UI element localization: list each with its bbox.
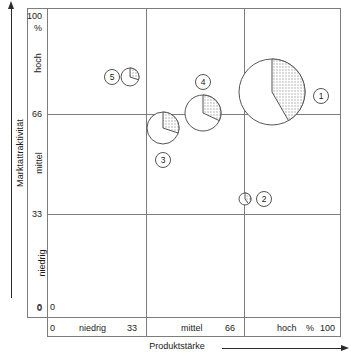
- bubble-4[interactable]: [185, 95, 221, 131]
- x-unit-percent: %: [306, 319, 314, 338]
- x-tick-33: 33: [127, 319, 137, 338]
- bubble-label-1[interactable]: 1: [313, 88, 329, 104]
- x-row-divider-66: [244, 318, 245, 337]
- bubble-3[interactable]: [147, 112, 179, 144]
- bubble-label-3[interactable]: 3: [155, 152, 171, 168]
- x-band-hoch: hoch: [277, 319, 297, 338]
- x-band-niedrig: niedrig: [79, 319, 106, 338]
- x-axis-arrow-icon: [222, 348, 342, 349]
- x-band-mittel: mittel: [181, 319, 203, 338]
- bubble-label-2[interactable]: 2: [256, 191, 272, 207]
- x-row-divider-33: [146, 318, 147, 337]
- bubble-1[interactable]: [239, 59, 305, 125]
- bubble-label-4[interactable]: 4: [195, 74, 211, 90]
- x-tick-100: 100: [320, 319, 335, 338]
- bubbles-layer: [0, 0, 354, 356]
- bubble-5[interactable]: [121, 68, 139, 86]
- portfolio-matrix-chart: Marktattraktivität 100 % 66 33 0 hoch mi…: [0, 0, 354, 356]
- x-axis-title: Produktstärke: [0, 341, 354, 351]
- x-tick-66: 66: [225, 319, 235, 338]
- x-tick-0: 0: [50, 319, 55, 338]
- bubble-label-5[interactable]: 5: [104, 69, 120, 85]
- bubble-2[interactable]: [239, 193, 251, 205]
